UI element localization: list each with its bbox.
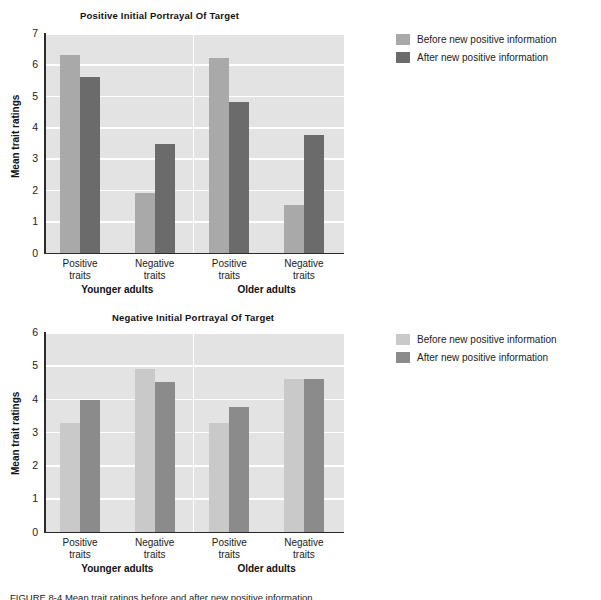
y-axis-tick-label: 3 [32,426,38,438]
y-axis-tick-label: 0 [32,526,38,538]
bar [284,379,304,532]
y-axis-tick-label: 2 [32,459,38,471]
x-axis-category-label: Negative traits [120,537,190,560]
gridline [46,64,345,66]
chart-title-positive-portrayal: Positive Initial Portrayal Of Target [80,10,239,21]
bar [229,407,249,532]
chart-title-negative-portrayal: Negative Initial Portrayal Of Target [112,312,274,323]
bar [229,102,249,253]
y-axis-tick-label: 6 [32,326,38,338]
bar [304,135,324,253]
bar [284,205,304,252]
x-axis-group-label: Older adults [207,284,327,295]
legend-row-before-top: Before new positive information [396,31,557,47]
x-axis-category-label: Positive traits [194,258,264,281]
bar [155,144,175,252]
y-axis-label-top: Mean trait ratings [10,95,21,178]
x-axis-category-label: Negative traits [120,258,190,281]
x-axis-category-label: Negative traits [269,537,339,560]
chart-panel-negative-portrayal: Negative Initial Portrayal Of Target Mea… [0,300,601,600]
legend-row-after-top: After new positive information [396,49,557,65]
legend-label-after-bottom: After new positive information [417,352,548,363]
figure-caption: FIGURE 8-4 Mean trait ratings before and… [10,592,595,600]
bar [80,77,100,253]
y-axis-tick-label: 0 [32,247,38,259]
bar [304,379,324,532]
legend-swatch-after-top [396,52,410,63]
y-axis-tick-label: 2 [32,184,38,196]
x-axis-category-label: Negative traits [269,258,339,281]
y-axis-tick-label: 1 [32,492,38,504]
x-axis-top [44,253,344,255]
x-axis-category-label: Positive traits [45,258,115,281]
x-axis-bottom [44,532,344,534]
gridline [46,332,345,334]
bar [155,382,175,532]
x-axis-group-label: Younger adults [57,563,177,574]
y-axis-tick-label: 4 [32,393,38,405]
legend-top: Before new positive information After ne… [396,31,557,67]
bar [80,400,100,531]
legend-swatch-before-bottom [396,334,410,345]
y-axis-tick-label: 3 [32,152,38,164]
y-axis-tick-label: 5 [32,359,38,371]
gridline [46,33,345,35]
legend-swatch-after-bottom [396,352,410,363]
y-axis-tick-label: 6 [32,58,38,70]
y-axis-tick-label: 5 [32,90,38,102]
bar [209,58,229,252]
legend-label-before-bottom: Before new positive information [417,334,557,345]
plot-area-top: 01234567 [44,33,344,254]
chart-panel-positive-portrayal: Positive Initial Portrayal Of Target Mea… [0,0,601,300]
plot-area-bottom: 0123456 [44,332,344,533]
bar [60,423,80,531]
y-axis-label-bottom: Mean trait ratings [10,392,21,475]
legend-bottom: Before new positive information After ne… [396,331,557,367]
y-axis-tick-label: 4 [32,121,38,133]
legend-row-before-bottom: Before new positive information [396,331,557,347]
legend-swatch-before-top [396,34,410,45]
x-axis-category-label: Positive traits [45,537,115,560]
legend-label-after-top: After new positive information [417,52,548,63]
x-axis-category-label: Positive traits [194,537,264,560]
bar [135,369,155,532]
gridline [46,365,345,367]
y-axis-tick-label: 7 [32,27,38,39]
legend-label-before-top: Before new positive information [417,34,557,45]
x-axis-group-label: Older adults [207,563,327,574]
bar [60,55,80,253]
bar [209,423,229,531]
bar [135,193,155,253]
x-axis-group-label: Younger adults [57,284,177,295]
legend-row-after-bottom: After new positive information [396,349,557,365]
y-axis-tick-label: 1 [32,215,38,227]
